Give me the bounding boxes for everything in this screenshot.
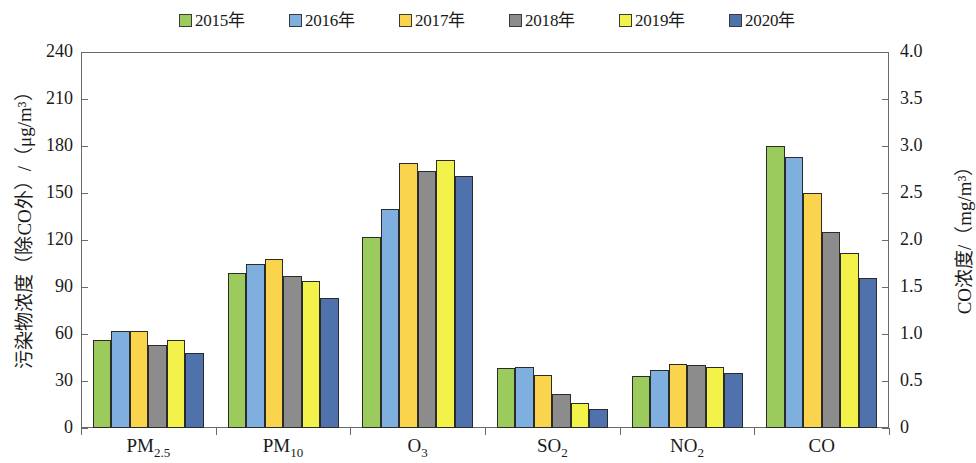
bar[interactable] xyxy=(552,394,571,428)
bar[interactable] xyxy=(302,281,321,428)
bar[interactable] xyxy=(148,345,167,428)
x-category-label: PM10 xyxy=(216,436,351,463)
bar[interactable] xyxy=(93,340,112,428)
bar[interactable] xyxy=(111,331,130,428)
bar[interactable] xyxy=(724,373,743,428)
x-category-label: SO2 xyxy=(485,436,620,463)
bar[interactable] xyxy=(381,209,400,428)
bar[interactable] xyxy=(785,157,804,428)
bar[interactable] xyxy=(130,331,149,428)
bar[interactable] xyxy=(399,163,418,428)
x-category-label: NO2 xyxy=(620,436,755,463)
bar[interactable] xyxy=(840,253,859,428)
bar[interactable] xyxy=(534,375,553,428)
bar[interactable] xyxy=(497,368,516,428)
bar[interactable] xyxy=(167,340,186,428)
bar[interactable] xyxy=(803,193,822,428)
bar[interactable] xyxy=(632,376,651,428)
bar[interactable] xyxy=(455,176,474,428)
bar[interactable] xyxy=(362,237,381,428)
x-category-label: O3 xyxy=(350,436,485,463)
bar[interactable] xyxy=(766,146,785,428)
bar[interactable] xyxy=(283,276,302,428)
bar[interactable] xyxy=(515,367,534,428)
bar[interactable] xyxy=(265,259,284,428)
bar[interactable] xyxy=(669,364,688,428)
bar[interactable] xyxy=(418,171,437,428)
bar[interactable] xyxy=(185,353,204,428)
bar[interactable] xyxy=(650,370,669,428)
bar[interactable] xyxy=(706,367,725,428)
bar[interactable] xyxy=(436,160,455,428)
bar[interactable] xyxy=(687,365,706,428)
bar[interactable] xyxy=(589,409,608,428)
bar[interactable] xyxy=(320,298,339,428)
x-category-label: CO xyxy=(754,436,889,456)
bar[interactable] xyxy=(228,273,247,428)
bar[interactable] xyxy=(246,264,265,429)
bar[interactable] xyxy=(859,278,878,428)
bar[interactable] xyxy=(822,232,841,428)
right-axis-title: CO浓度/（mg/m³） xyxy=(949,46,976,426)
bar[interactable] xyxy=(571,403,590,428)
x-category-label: PM2.5 xyxy=(81,436,216,463)
left-axis-title: 污染物浓度（除CO外）/（μg/m³） xyxy=(9,36,36,416)
